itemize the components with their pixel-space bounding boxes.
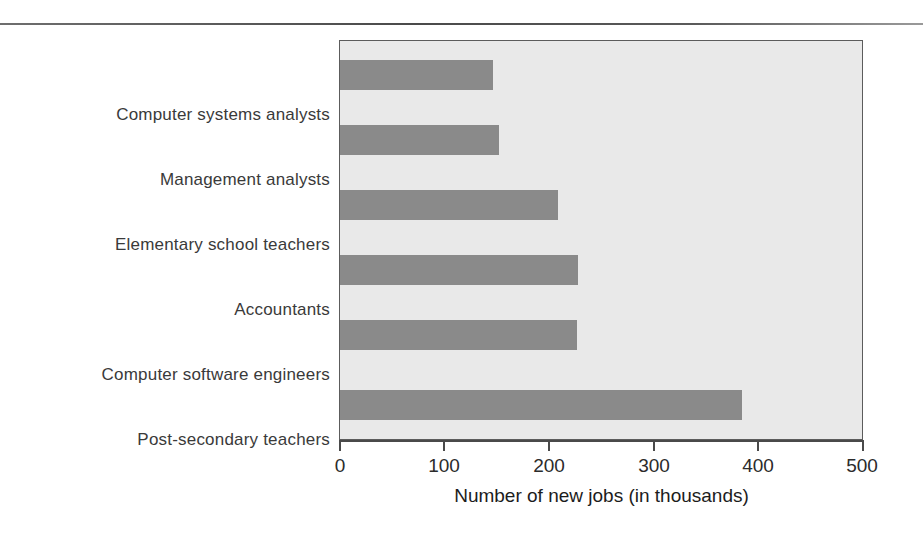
bar-elementary-school-teachers — [340, 190, 558, 220]
category-label-2: Elementary school teachers — [0, 235, 330, 255]
bar-computer-systems-analysts — [340, 60, 493, 90]
bar-management-analysts — [340, 125, 499, 155]
category-axis-labels: Computer systems analysts Management ana… — [0, 40, 330, 440]
x-tick-mark-2 — [548, 440, 550, 451]
category-label-1: Management analysts — [0, 170, 330, 190]
top-divider-rule — [0, 23, 923, 25]
x-tick-label-1: 100 — [428, 455, 460, 477]
x-tick-label-3: 300 — [638, 455, 670, 477]
x-tick-mark-5 — [862, 440, 864, 451]
x-tick-mark-0 — [339, 440, 341, 451]
x-axis-line — [339, 440, 864, 442]
bar-post-secondary-teachers — [340, 390, 742, 420]
category-label-0: Computer systems analysts — [0, 105, 330, 125]
x-tick-label-5: 500 — [846, 455, 878, 477]
x-tick-label-2: 200 — [533, 455, 565, 477]
x-tick-mark-3 — [653, 440, 655, 451]
x-axis-title: Number of new jobs (in thousands) — [339, 484, 864, 508]
category-label-3: Accountants — [0, 300, 330, 320]
x-tick-label-4: 400 — [742, 455, 774, 477]
bar-chart-figure: Computer systems analysts Management ana… — [0, 0, 923, 538]
bar-accountants — [340, 255, 578, 285]
category-label-5: Post-secondary teachers — [0, 430, 330, 450]
bar-computer-software-engineers — [340, 320, 577, 350]
x-tick-label-0: 0 — [335, 455, 346, 477]
x-tick-mark-4 — [757, 440, 759, 451]
x-tick-mark-1 — [443, 440, 445, 451]
plot-area — [339, 40, 863, 440]
category-label-4: Computer software engineers — [0, 365, 330, 385]
